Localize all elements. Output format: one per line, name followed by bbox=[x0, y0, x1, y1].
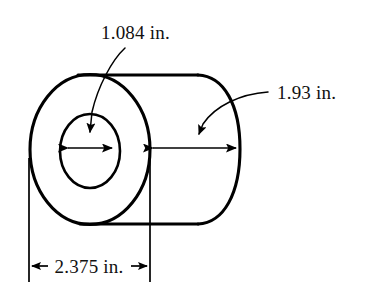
cylinder-drawing-canvas: 1.084 in. 1.93 in. 2.375 in. bbox=[0, 0, 368, 291]
bore-diameter-label: 1.084 in. bbox=[101, 22, 170, 43]
length-dimension-leader bbox=[199, 92, 268, 134]
engineering-diagram: 1.084 in. 1.93 in. 2.375 in. bbox=[0, 0, 368, 291]
outer-diameter-label: 2.375 in. bbox=[55, 256, 124, 277]
near-face-outer-ellipse bbox=[30, 75, 150, 225]
length-label: 1.93 in. bbox=[277, 82, 336, 103]
cylinder-right-end-arc bbox=[198, 75, 240, 224]
